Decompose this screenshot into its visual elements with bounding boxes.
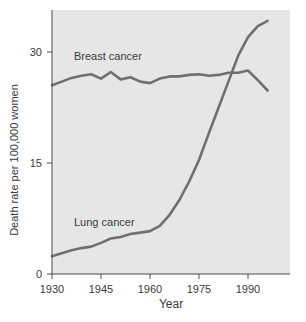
x-tick-label: 1975 — [187, 283, 211, 295]
x-tick-label: 1945 — [89, 283, 113, 295]
chart-svg: 19301945196019751990 01530 Breast cancer… — [0, 0, 306, 322]
y-axis-title: Death rate per 100,000 women — [8, 84, 20, 236]
series-label-lung: Lung cancer — [74, 216, 135, 228]
x-tick-label: 1930 — [40, 283, 64, 295]
y-tick-label: 30 — [30, 46, 42, 58]
series-label-breast: Breast cancer — [74, 50, 142, 62]
y-ticks: 01530 — [30, 46, 52, 280]
x-axis-title: Year — [159, 297, 183, 311]
x-tick-label: 1990 — [236, 283, 260, 295]
x-tick-label: 1960 — [138, 283, 162, 295]
y-tick-label: 0 — [36, 268, 42, 280]
x-ticks: 19301945196019751990 — [40, 274, 260, 295]
y-tick-label: 15 — [30, 157, 42, 169]
